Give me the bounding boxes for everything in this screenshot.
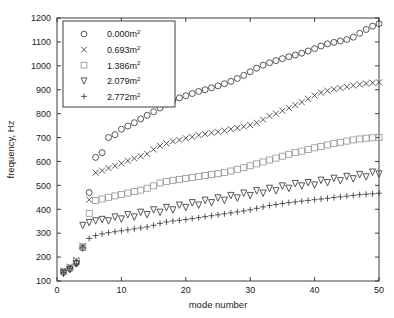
data-point-plus (157, 220, 163, 226)
data-point-square (163, 179, 169, 185)
data-point-triangle-down (106, 218, 112, 224)
data-point-cross (312, 92, 318, 98)
data-point-square (299, 148, 305, 154)
data-point-square (273, 155, 279, 161)
x-axis-label: mode number (189, 299, 248, 310)
data-point-triangle-down (112, 214, 118, 220)
x-tick-label: 20 (181, 285, 191, 295)
data-point-triangle-down (350, 176, 356, 182)
data-point-triangle-down (131, 214, 137, 220)
data-point-square (228, 168, 234, 174)
data-point-triangle-down (331, 175, 337, 181)
data-point-cross (221, 128, 227, 134)
data-point-triangle-down (170, 207, 176, 213)
series-2.079m2 (60, 169, 382, 277)
data-point-circle (221, 81, 227, 87)
data-point-plus (324, 195, 330, 201)
data-point-cross (151, 147, 157, 153)
data-point-triangle-down (324, 179, 330, 185)
legend-label: 1.386m2 (107, 59, 141, 70)
data-point-square (370, 135, 376, 141)
chart-legend: 0.000m20.693m21.386m22.079m22.772m2 (63, 21, 175, 107)
data-point-triangle-down (357, 171, 363, 177)
data-point-circle (131, 120, 137, 126)
data-point-triangle-down (221, 197, 227, 203)
data-point-square (144, 185, 150, 191)
y-tick-label: 700 (36, 133, 51, 143)
data-point-circle (93, 154, 99, 160)
data-point-plus (312, 197, 318, 203)
data-point-square (202, 173, 208, 179)
data-point-square (267, 157, 273, 163)
data-point-cross (331, 86, 337, 92)
data-point-circle (305, 48, 311, 54)
legend-label: 0.693m2 (107, 44, 141, 55)
series-2.772m2 (60, 190, 382, 275)
data-point-cross (189, 134, 195, 140)
x-tick-label: 0 (54, 285, 59, 295)
y-axis-label: frequency, Hz (5, 120, 16, 178)
data-point-circle (247, 69, 253, 75)
data-point-cross (292, 102, 298, 108)
data-point-cross (196, 132, 202, 138)
data-point-square (125, 190, 131, 196)
data-point-square (286, 151, 292, 157)
data-point-plus (202, 214, 208, 220)
data-point-triangle-down (118, 216, 124, 222)
frequency-vs-mode-number-scatter-chart: 1002003004005006007008009001000110012000… (0, 0, 394, 318)
data-point-square (363, 135, 369, 141)
data-point-cross (286, 105, 292, 111)
data-point-cross (163, 141, 169, 147)
data-point-cross (267, 113, 273, 119)
data-point-plus (305, 197, 311, 203)
data-point-cross (118, 160, 124, 166)
data-point-circle (318, 43, 324, 49)
data-point-plus (221, 211, 227, 217)
data-point-circle (292, 52, 298, 58)
data-point-square (151, 183, 157, 189)
data-point-plus (370, 191, 376, 197)
y-tick-label: 1000 (31, 61, 51, 71)
data-point-triangle-down (305, 179, 311, 185)
data-point-cross (183, 135, 189, 141)
data-point-triangle-down (241, 190, 247, 196)
data-point-plus (228, 210, 234, 216)
data-point-plus (176, 217, 182, 223)
y-tick-label: 200 (36, 252, 51, 262)
data-point-triangle-down (183, 204, 189, 210)
y-tick-label: 900 (36, 85, 51, 95)
data-point-triangle-down (292, 180, 298, 186)
data-point-triangle-down (209, 200, 215, 206)
legend-label: 2.772m2 (107, 91, 141, 102)
data-point-circle (151, 109, 157, 115)
data-point-plus (189, 216, 195, 222)
data-point-triangle-down (337, 178, 343, 184)
data-point-circle (363, 26, 369, 32)
data-point-triangle-down (273, 188, 279, 194)
data-point-plus (363, 191, 369, 197)
data-point-circle (209, 85, 215, 91)
data-point-circle (350, 34, 356, 40)
data-point-square (131, 189, 137, 195)
data-point-circle (254, 65, 260, 71)
data-point-triangle-down (93, 218, 99, 224)
data-point-plus (112, 229, 118, 235)
data-point-triangle-down (370, 169, 376, 175)
data-point-plus (144, 224, 150, 230)
data-point-circle (273, 58, 279, 64)
y-tick-label: 100 (36, 276, 51, 286)
data-point-triangle-down (215, 195, 221, 201)
data-point-triangle-down (80, 222, 86, 228)
data-point-triangle-down (202, 197, 208, 203)
data-point-triangle-down (157, 209, 163, 215)
data-point-square (157, 180, 163, 186)
data-point-square (112, 193, 118, 199)
data-point-cross (337, 85, 343, 91)
data-point-square (86, 210, 92, 216)
data-point-plus (170, 218, 176, 224)
data-point-cross (125, 158, 131, 164)
data-point-plus (267, 202, 273, 208)
data-point-square (215, 171, 221, 177)
data-point-square (93, 197, 99, 203)
data-point-triangle-down (344, 173, 350, 179)
